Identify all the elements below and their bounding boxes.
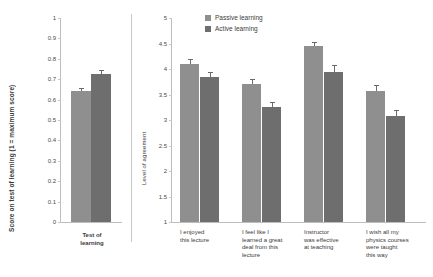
error-bar-cap [250, 79, 255, 80]
y-tick-label: 0.7 [34, 76, 56, 82]
legend-swatch-passive-icon [205, 15, 211, 21]
error-bar-cap [270, 102, 275, 103]
y-tick-mark [58, 222, 61, 223]
right-x-axis-line [171, 222, 426, 223]
right-category-label: I feel like I learned a great deal from … [242, 229, 300, 259]
right-category-label: I wish all my physics courses were taugh… [366, 229, 424, 259]
bar [91, 74, 111, 222]
bar [71, 91, 91, 222]
y-tick-label: 2.5 [145, 143, 167, 149]
y-tick-label: 2 [145, 168, 167, 174]
bar [180, 64, 199, 222]
y-tick-label: 0.5 [34, 117, 56, 123]
y-tick-label: 0.2 [34, 178, 56, 184]
legend-swatch-active-icon [205, 26, 211, 32]
y-tick-label: 0.1 [34, 199, 56, 205]
bar [262, 107, 281, 222]
y-tick-label: 5 [145, 15, 167, 21]
left-category-label: Test of learning [62, 231, 122, 247]
bar [324, 72, 343, 222]
y-tick-label: 0.6 [34, 97, 56, 103]
right-category-label: I enjoyed this lecture [180, 229, 238, 244]
y-tick-label: 3 [145, 117, 167, 123]
y-tick-label: 1 [34, 15, 56, 21]
left-y-axis-title: Score on test of learning (1 = maximum s… [8, 36, 15, 232]
legend-label-active: Active learning [215, 24, 258, 33]
y-tick-label: 4.5 [145, 41, 167, 47]
y-tick-label: 1.5 [145, 194, 167, 200]
error-bar-cap [374, 85, 379, 86]
error-bar-cap [332, 65, 337, 66]
y-tick-label: 4 [145, 66, 167, 72]
right-bar-group [172, 18, 426, 222]
error-bar-cap [99, 70, 104, 71]
y-tick-label: 0.9 [34, 35, 56, 41]
error-bar-cap [208, 72, 213, 73]
error-bar-cap [79, 88, 84, 89]
bar [242, 84, 261, 222]
error-bar-cap [188, 59, 193, 60]
right-category-label: Instructor was effective at teaching [304, 229, 362, 252]
left-x-axis-line [60, 222, 122, 223]
panel-divider [131, 14, 132, 242]
figure-bar-charts: Score on test of learning (1 = maximum s… [0, 0, 433, 277]
bar [200, 77, 219, 222]
y-tick-label: 1 [145, 219, 167, 225]
left-bar-group [61, 18, 122, 222]
bar [366, 91, 385, 222]
y-tick-label: 0.8 [34, 56, 56, 62]
y-tick-label: 0.4 [34, 137, 56, 143]
y-tick-mark [169, 222, 172, 223]
legend-label-passive: Passive learning [215, 13, 263, 22]
error-bar-cap [312, 42, 317, 43]
y-tick-label: 3.5 [145, 92, 167, 98]
y-tick-label: 0.3 [34, 158, 56, 164]
error-bar-cap [394, 110, 399, 111]
y-tick-label: 0 [34, 219, 56, 225]
bar [304, 46, 323, 222]
bar [386, 116, 405, 222]
